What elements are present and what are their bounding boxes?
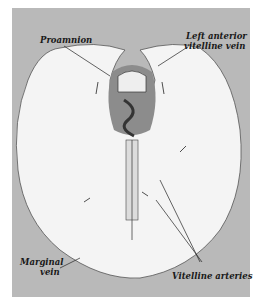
label-proamnion: Proamnion bbox=[40, 36, 92, 45]
label-left-anterior-vitelline-vein-2: vitelline vein bbox=[184, 42, 246, 51]
embryo-head bbox=[118, 71, 146, 92]
label-marginal-vein-1: Marginal bbox=[20, 258, 63, 267]
label-vitelline-arteries: Vitelline arteries bbox=[172, 272, 252, 281]
label-marginal-vein-2: vein bbox=[40, 268, 60, 277]
label-left-anterior-vitelline-vein-1: Left anterior bbox=[186, 32, 247, 41]
